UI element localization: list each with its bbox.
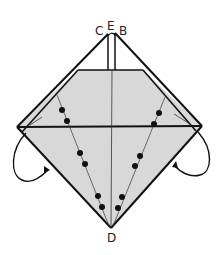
fold-diagram-svg bbox=[0, 0, 222, 255]
label-e: E bbox=[107, 20, 115, 32]
label-d: D bbox=[107, 232, 116, 244]
flap-top-curve bbox=[108, 33, 115, 36]
label-b: B bbox=[119, 25, 127, 37]
label-c: C bbox=[95, 25, 103, 37]
origami-diagram: C E B D bbox=[0, 0, 222, 255]
horizontal-fold-line bbox=[17, 126, 202, 127]
right-arrow-head-icon bbox=[172, 161, 178, 168]
shaded-lower-kite bbox=[17, 126, 202, 228]
